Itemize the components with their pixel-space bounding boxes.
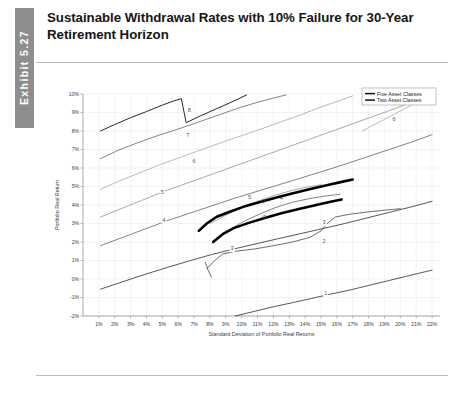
contour-lines [100,95,432,316]
contour-chart: 1%2%3%4%5%6%7%8%9%10%11%12%13%14%15%16%1… [36,64,448,374]
y-tick-label: 6% [72,165,80,171]
frontier-markers [261,200,266,219]
x-tick-label: 6% [175,321,183,327]
contour-label: 5 [161,189,164,195]
x-axis-title: Standard Deviation of Portfolio Real Ret… [208,331,314,337]
y-tick-label: -1% [70,294,80,300]
x-tick-label: 9% [222,321,230,327]
contour-label: 6 [193,158,196,164]
exhibit-page: Exhibit 5.27 Sustainable Withdrawal Rate… [0,0,468,395]
contour-label: 5 [248,194,251,200]
contour-label: 1 [324,290,327,296]
contour-label: 4 [162,217,165,223]
y-tick-label: 10% [69,91,80,97]
y-tick-label: 5% [72,183,80,189]
chart-legend[interactable]: Five Asset ClassesTwo Asset Classes [362,88,436,105]
contour-line-1 [235,270,432,316]
contour-label: 3 [323,219,326,225]
contour-line-3 [207,209,401,269]
legend-label: Two Asset Classes [377,97,422,103]
y-tick-label: 8% [72,128,80,134]
exhibit-tab-label: Exhibit 5.27 [15,8,34,128]
x-tick-label: 14% [300,321,311,327]
contour-line-7 [100,95,286,159]
x-tick-label: 7% [190,321,198,327]
y-axis-title: Portfolio Real Return [54,180,60,230]
title-divider [36,62,448,63]
y-tick-label: 2% [72,239,80,245]
contour-label: 7 [186,132,189,138]
x-tick-label: 5% [159,321,167,327]
x-tick-label: 12% [268,321,279,327]
x-tick-label: 17% [348,321,359,327]
y-tick-label: 0% [72,276,80,282]
x-tick-label: 21% [411,321,422,327]
x-tick-labels: 1%2%3%4%5%6%7%8%9%10%11%12%13%14%15%16%1… [95,316,437,327]
y-tick-labels: 10%9%8%7%6%5%4%3%2%1%0%-1%-2% [69,91,83,319]
contour-label: 3 [231,245,234,251]
x-tick-label: 19% [379,321,390,327]
x-tick-label: 22% [427,321,438,327]
x-tick-label: 2% [111,321,119,327]
x-tick-label: 11% [253,321,263,327]
x-tick-label: 4% [143,321,151,327]
y-tick-label: 3% [72,220,80,226]
contour-level-labels: 876655443321 [160,107,397,297]
y-tick-label: 4% [72,202,80,208]
x-tick-label: 8% [206,321,214,327]
contour-label: 6 [392,116,395,122]
x-tick-label: 10% [237,321,248,327]
chart-container: 1%2%3%4%5%6%7%8%9%10%11%12%13%14%15%16%1… [36,64,448,374]
y-tick-label: 7% [72,146,80,152]
y-tick-label: -2% [70,313,80,319]
frontier-curves [199,179,353,242]
x-tick-label: 13% [284,321,295,327]
contour-label: 2 [323,238,326,244]
legend-label: Five Asset Classes [377,91,422,97]
exhibit-tab: Exhibit 5.27 [15,8,34,128]
contour-line-2 [100,201,432,289]
page-title: Sustainable Withdrawal Rates with 10% Fa… [47,10,447,43]
contour-line-4 [100,135,432,246]
x-tick-label: 20% [395,321,406,327]
grid-lines [83,94,440,316]
x-tick-label: 1% [95,321,103,327]
exhibit-title-text: Sustainable Withdrawal Rates with 10% Fa… [47,10,447,43]
x-tick-label: 18% [363,321,374,327]
x-tick-label: 3% [127,321,135,327]
contour-label: 8 [188,107,191,113]
x-tick-label: 15% [316,321,327,327]
bottom-divider [36,375,448,376]
y-tick-label: 1% [72,257,80,263]
x-tick-label: 16% [332,321,343,327]
y-tick-label: 9% [72,109,80,115]
